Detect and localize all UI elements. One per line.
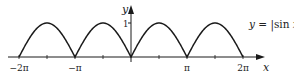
x-tick-label-pi: π [184,63,190,73]
y-axis-label: y [121,3,129,16]
y-tick-label-1: 1 [123,19,128,29]
function-label-x: x [293,18,294,30]
abs-sine-graph: y 1 −2π −π π 2π x y = |sin x| [0,0,294,79]
x-tick-label-neg-pi: −π [68,63,82,73]
function-label: y = |sin x| [248,18,294,32]
x-tick-label-neg-2pi: −2π [9,63,28,73]
function-label-eq: = |sin [255,18,293,32]
x-axis-label: x [263,61,270,74]
x-axis-arrow-icon [256,54,265,60]
x-tick-label-2pi: 2π [237,63,249,73]
y-axis-arrow-icon [128,5,134,14]
